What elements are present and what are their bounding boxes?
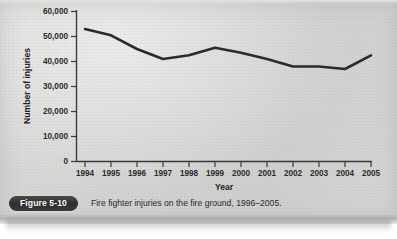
line-chart: 0 10,000 20,000 30,000 40,000 50,000 60,… xyxy=(0,0,397,190)
data-series-line xyxy=(85,29,371,69)
y-axis-tick-labels: 0 10,000 20,000 30,000 40,000 50,000 60,… xyxy=(43,7,68,166)
x-tick-label: 2004 xyxy=(336,169,355,178)
y-tick-label: 50,000 xyxy=(43,32,68,41)
x-tick-label: 2005 xyxy=(362,169,381,178)
x-tick-label: 1997 xyxy=(154,169,173,178)
x-tick-label: 1998 xyxy=(180,169,199,178)
y-axis-ticks xyxy=(71,12,77,162)
y-tick-label: 30,000 xyxy=(43,82,68,91)
y-tick-label: 10,000 xyxy=(43,132,68,141)
x-tick-label: 1996 xyxy=(128,169,147,178)
y-tick-label: 60,000 xyxy=(43,7,68,16)
x-axis-ticks xyxy=(85,162,371,168)
figure-caption-row: Figure 5-10 Fire fighter injuries on the… xyxy=(0,191,397,215)
figure-number-badge: Figure 5-10 xyxy=(9,196,78,211)
x-tick-label: 1999 xyxy=(206,169,225,178)
y-tick-label: 40,000 xyxy=(43,57,68,66)
page-drop-shadow xyxy=(6,220,391,232)
x-tick-label: 2003 xyxy=(310,169,329,178)
scanned-page: 0 10,000 20,000 30,000 40,000 50,000 60,… xyxy=(0,0,397,221)
figure-caption-text: Fire fighter injuries on the fire ground… xyxy=(91,198,282,208)
y-tick-label: 20,000 xyxy=(43,107,68,116)
x-tick-label: 1995 xyxy=(102,169,121,178)
x-axis-title: Year xyxy=(215,182,234,190)
y-tick-label: 0 xyxy=(63,157,68,166)
x-tick-label: 2001 xyxy=(258,169,277,178)
y-axis-title: Number of injuries xyxy=(22,48,32,124)
x-tick-label: 2000 xyxy=(232,169,251,178)
x-axis-tick-labels: 1994 1995 1996 1997 1998 1999 2000 2001 … xyxy=(76,169,381,178)
x-tick-label: 1994 xyxy=(76,169,95,178)
chart-canvas: 0 10,000 20,000 30,000 40,000 50,000 60,… xyxy=(0,0,397,190)
x-tick-label: 2002 xyxy=(284,169,303,178)
